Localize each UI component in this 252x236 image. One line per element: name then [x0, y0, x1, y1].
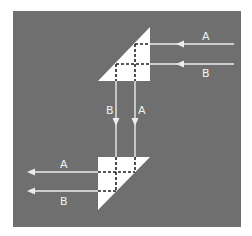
arrow-left-icon: [176, 61, 184, 68]
vertical-rays: B A: [106, 81, 146, 157]
incoming-rays: A B: [150, 30, 234, 80]
vertical-ray-b-label: B: [106, 104, 114, 117]
arrow-down-icon: [132, 118, 139, 126]
lower-prism-shape: [98, 157, 150, 210]
outgoing-rays: A B: [27, 158, 98, 208]
arrow-left-icon: [27, 169, 35, 176]
upper-prism: [98, 27, 150, 81]
arrow-down-icon: [113, 118, 120, 126]
arrow-left-icon: [176, 41, 184, 48]
diagram-canvas: A B B A A B: [0, 0, 252, 236]
outgoing-ray-b-label: B: [60, 195, 68, 208]
vertical-ray-a-label: A: [138, 104, 146, 117]
prism-diagram: A B B A A B: [0, 0, 252, 236]
arrow-left-icon: [27, 188, 35, 195]
incoming-ray-a-label: A: [202, 30, 210, 43]
incoming-ray-b-label: B: [202, 67, 210, 80]
outgoing-ray-a-label: A: [60, 158, 68, 171]
lower-prism: [98, 157, 150, 210]
upper-prism-shape: [98, 27, 150, 81]
